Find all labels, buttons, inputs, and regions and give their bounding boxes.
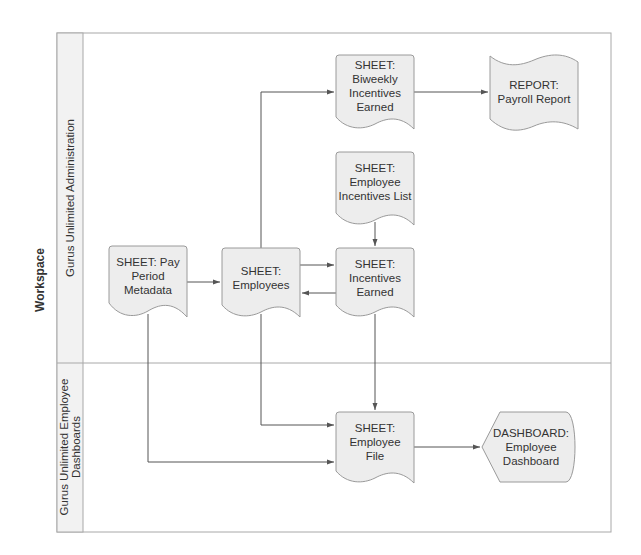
node-pay-period-line1: SHEET: Pay: [116, 255, 179, 269]
lane-label-dashboards-line1: Gurus Unlimited Employee: [58, 379, 70, 516]
node-biweekly-line3: Incentives: [349, 86, 401, 100]
node-biweekly-line4: Earned: [349, 100, 401, 114]
node-employees[interactable]: SHEET: Employees: [222, 250, 300, 306]
node-employee-file[interactable]: SHEET: Employee File: [336, 414, 414, 470]
node-dashboard-line3: Dashboard: [493, 454, 569, 468]
node-incentives-earned-line1: SHEET:: [349, 257, 401, 271]
pool-label: Workspace: [33, 248, 47, 312]
node-incentives-list[interactable]: SHEET: Employee Incentives List: [334, 154, 416, 210]
node-pay-period-line3: Metadata: [116, 283, 179, 297]
node-incentives-earned[interactable]: SHEET: Incentives Earned: [336, 250, 414, 306]
node-payroll-report[interactable]: REPORT: Payroll Report: [490, 64, 578, 120]
node-dashboard-line2: Employee: [493, 440, 569, 454]
node-employees-line1: SHEET:: [233, 264, 290, 278]
node-incentives-earned-line2: Incentives: [349, 271, 401, 285]
node-payroll-report-line2: Payroll Report: [498, 92, 571, 106]
node-biweekly[interactable]: SHEET: Biweekly Incentives Earned: [336, 56, 414, 116]
lane-label-dashboards: Gurus Unlimited Employee Dashboards: [58, 379, 82, 516]
node-incentives-list-line1: SHEET:: [339, 161, 412, 175]
lane-label-dashboards-line2: Dashboards: [70, 379, 82, 516]
lane-label-administration: Gurus Unlimited Administration: [64, 119, 76, 277]
node-biweekly-line2: Biweekly: [349, 72, 401, 86]
node-incentives-earned-line3: Earned: [349, 285, 401, 299]
node-incentives-list-line3: Incentives List: [339, 189, 412, 203]
lane-label-administration-text: Gurus Unlimited Administration: [64, 119, 76, 277]
node-employee-file-line3: File: [349, 449, 400, 463]
node-pay-period-line2: Period: [116, 269, 179, 283]
node-biweekly-line1: SHEET:: [349, 58, 401, 72]
node-employee-file-line2: Employee: [349, 435, 400, 449]
node-employees-line2: Employees: [233, 278, 290, 292]
node-dashboard-line1: DASHBOARD:: [493, 426, 569, 440]
node-incentives-list-line2: Employee: [339, 175, 412, 189]
node-dashboard[interactable]: DASHBOARD: Employee Dashboard: [486, 419, 576, 475]
node-pay-period[interactable]: SHEET: Pay Period Metadata: [109, 248, 187, 304]
node-employee-file-line1: SHEET:: [349, 421, 400, 435]
node-payroll-report-line1: REPORT:: [498, 78, 571, 92]
